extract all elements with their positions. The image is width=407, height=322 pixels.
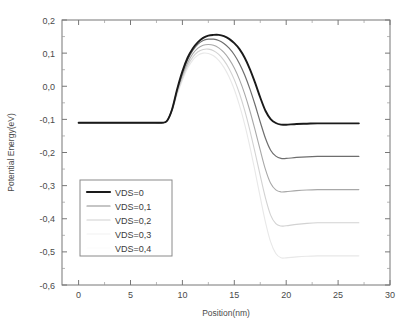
legend-label: VDS=0,3: [115, 230, 151, 240]
x-tick-label: 5: [128, 290, 133, 300]
chart-figure: 0510152025300,20,10,0-0,1-0,2-0,3-0,4-0,…: [0, 0, 407, 322]
x-tick-label: 10: [177, 290, 187, 300]
curve-vds-0-2: [79, 45, 359, 193]
x-tick-label: 0: [76, 290, 81, 300]
legend-label: VDS=0: [115, 188, 144, 198]
y-tick-label: 0,1: [42, 49, 55, 59]
potential-energy-plot: 0510152025300,20,10,0-0,1-0,2-0,3-0,4-0,…: [0, 0, 407, 322]
legend-label: VDS=0,2: [115, 216, 151, 226]
y-tick-label: -0,6: [39, 281, 55, 291]
y-tick-label: 0,2: [42, 16, 55, 26]
y-tick-label: -0,1: [39, 115, 55, 125]
legend-label: VDS=0,1: [115, 202, 151, 212]
legend-label: VDS=0,4: [115, 244, 151, 254]
y-tick-label: -0,5: [39, 247, 55, 257]
curve-vds-0-1: [79, 39, 359, 159]
y-tick-label: -0,2: [39, 148, 55, 158]
x-tick-label: 30: [385, 290, 395, 300]
y-axis-title: Potential Energy(eV): [6, 113, 16, 192]
x-tick-label: 25: [333, 290, 343, 300]
y-tick-label: -0,4: [39, 214, 55, 224]
y-tick-label: 0,0: [42, 82, 55, 92]
x-tick-label: 15: [229, 290, 239, 300]
y-tick-label: -0,3: [39, 181, 55, 191]
x-tick-label: 20: [281, 290, 291, 300]
x-axis-title: Position(nm): [202, 308, 250, 318]
